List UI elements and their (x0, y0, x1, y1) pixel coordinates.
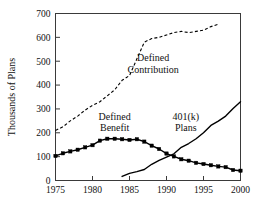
chart-canvas: 0100200300400500600700 19751980198519901… (0, 0, 261, 213)
series-marker-defined-benefit (172, 155, 175, 158)
defined-contribution-label-line-1: Defined (137, 52, 169, 63)
series-marker-defined-benefit (224, 165, 227, 168)
series-marker-defined-benefit (91, 143, 94, 146)
series-marker-defined-benefit (54, 154, 57, 157)
series-marker-defined-benefit (61, 152, 64, 155)
y-tick-label-300: 300 (36, 104, 51, 114)
series-marker-defined-benefit (180, 158, 183, 161)
x-axis-tick-labels: 197519801985199019952000 (46, 185, 250, 195)
defined-benefit-label-line-2: Benefit (100, 122, 130, 133)
series-marker-defined-benefit (76, 148, 79, 151)
x-tick-label-2000: 2000 (231, 185, 250, 195)
y-axis-title: Thousands of Plans (6, 58, 17, 136)
series-marker-defined-benefit (209, 164, 212, 167)
series-marker-defined-benefit (143, 140, 146, 143)
y-axis-title-text: Thousands of Plans (6, 58, 17, 136)
y-tick-label-700: 700 (36, 9, 51, 19)
x-tick-label-1995: 1995 (194, 185, 213, 195)
defined-contribution-label-line-2: Contribution (128, 64, 179, 75)
series-marker-defined-benefit (69, 150, 72, 153)
401k-plans-label-line-2: Plans (175, 122, 197, 133)
401k-plans-label-line-1: 401(k) (172, 111, 199, 123)
series-marker-defined-benefit (217, 165, 220, 168)
x-axis-ticks (56, 176, 241, 181)
series-marker-defined-benefit (150, 144, 153, 147)
plot-frame (56, 14, 241, 181)
series-marker-defined-benefit (165, 152, 168, 155)
y-tick-label-400: 400 (36, 80, 51, 90)
y-tick-label-600: 600 (36, 33, 51, 43)
y-tick-label-500: 500 (36, 57, 51, 67)
series-annotations: DefinedContributionDefinedBenefit401(k)P… (99, 52, 199, 133)
x-tick-label-1985: 1985 (120, 185, 139, 195)
series-marker-defined-benefit (120, 138, 123, 141)
series-layer (54, 24, 242, 176)
x-tick-label-1980: 1980 (83, 185, 102, 195)
y-tick-label-100: 100 (36, 152, 51, 162)
series-marker-defined-benefit (239, 169, 242, 172)
series-marker-defined-benefit (135, 138, 138, 141)
series-marker-defined-benefit (202, 162, 205, 165)
defined-benefit-label-line-1: Defined (99, 111, 131, 122)
x-tick-label-1975: 1975 (46, 185, 65, 195)
chart-container: 0100200300400500600700 19751980198519901… (0, 0, 261, 213)
y-axis-tick-labels: 0100200300400500600700 (36, 9, 51, 186)
series-marker-defined-benefit (157, 147, 160, 150)
x-tick-label-1990: 1990 (157, 185, 176, 195)
series-marker-defined-benefit (231, 168, 234, 171)
series-marker-defined-benefit (83, 146, 86, 149)
y-tick-label-200: 200 (36, 128, 51, 138)
series-marker-defined-benefit (113, 137, 116, 140)
series-marker-defined-benefit (187, 159, 190, 162)
series-marker-defined-benefit (194, 161, 197, 164)
series-marker-defined-benefit (128, 138, 131, 141)
series-marker-defined-benefit (98, 139, 101, 142)
series-marker-defined-benefit (106, 137, 109, 140)
plot-area-border (56, 14, 241, 181)
